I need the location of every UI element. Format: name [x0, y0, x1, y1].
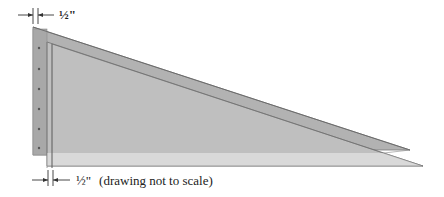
top-dimension-label: ½"	[59, 8, 76, 21]
scale-note: (drawing not to scale)	[99, 173, 213, 188]
top-dimension	[18, 8, 54, 24]
bottom-dimension	[32, 170, 70, 186]
diagram-canvas: ½" ½"(drawing not to scale)	[0, 0, 444, 197]
bottom-dimension-label: ½"(drawing not to scale)	[76, 174, 213, 187]
top-dimension-value: ½"	[59, 7, 76, 22]
front-sheet	[47, 42, 423, 168]
bottom-dimension-value: ½"	[76, 173, 91, 188]
